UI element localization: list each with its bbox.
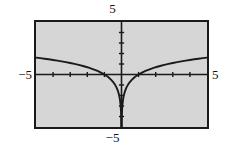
y-axis-min-label: −5 [0,131,225,144]
x-axis-min-label: −5 [8,68,32,81]
plot-frame [34,20,209,129]
calculator-graph-figure: 5 −5 5 −5 [0,0,225,148]
curve-branch-negative [36,58,121,127]
curve-branch-positive [122,58,207,127]
y-axis-max-label: 5 [0,2,225,15]
plot-canvas [36,22,207,127]
x-axis-max-label: 5 [212,68,225,81]
